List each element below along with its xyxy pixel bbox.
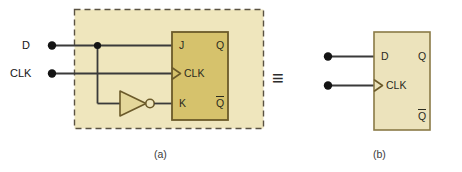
equivalence-symbol: ≡ <box>272 68 284 88</box>
d-pin-label-qbar-text: Q <box>418 111 426 122</box>
d-pin-label-qbar: Q <box>418 111 426 122</box>
jk-pin-label-qbar-text: Q <box>216 98 224 109</box>
panel-b-caption: (b) <box>373 148 386 160</box>
panel-a-caption: (a) <box>154 148 167 160</box>
d-pin-label-clk: CLK <box>386 80 406 91</box>
input-label-d-a: D <box>22 40 30 51</box>
jk-pin-label-q: Q <box>216 40 224 51</box>
terminal-dot-d-a <box>48 41 56 49</box>
panel-a-enclosure <box>75 10 264 129</box>
terminal-dot-d-b <box>324 52 332 60</box>
jk-pin-label-j: J <box>179 40 184 51</box>
jk-pin-label-qbar: Q <box>216 98 224 109</box>
figure-dff-from-jkff: D CLK J CLK K Q Q (a) ≡ D CLK Q Q (b) <box>0 0 462 172</box>
d-pin-label-d: D <box>381 51 389 62</box>
d-pin-label-q: Q <box>418 51 426 62</box>
jk-pin-label-clk: CLK <box>184 68 204 79</box>
jk-pin-label-k: K <box>179 98 186 109</box>
junction-dot-d <box>94 42 101 49</box>
terminal-dot-clk-b <box>324 81 332 89</box>
terminal-dot-clk-a <box>48 69 56 77</box>
inverter-bubble-icon <box>146 99 154 107</box>
input-label-clk-a: CLK <box>10 68 31 79</box>
